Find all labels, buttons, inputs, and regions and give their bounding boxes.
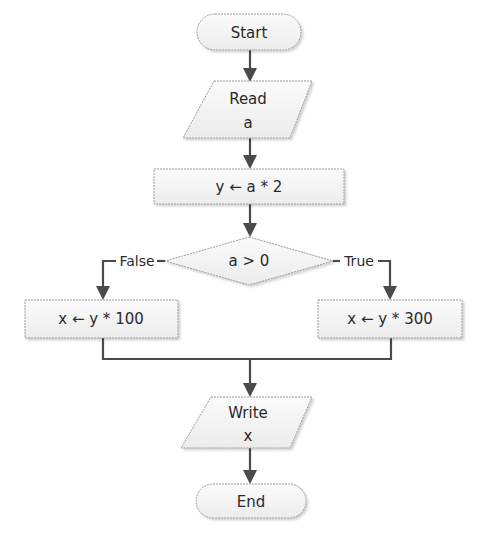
write-output-node[interactable]: Write x bbox=[181, 397, 312, 448]
end-label: End bbox=[237, 493, 266, 511]
read-label: Read bbox=[229, 90, 267, 108]
start-label: Start bbox=[231, 24, 268, 42]
flowchart-canvas: Start Read a y ← a * 2 a > 0 False True … bbox=[0, 0, 485, 534]
false-branch-label: x ← y * 100 bbox=[58, 310, 144, 328]
write-variable: x bbox=[244, 427, 253, 445]
assign-y-label: y ← a * 2 bbox=[216, 178, 283, 196]
connector-read-assign bbox=[243, 138, 257, 169]
false-edge-label: False bbox=[119, 253, 154, 269]
true-branch-label: x ← y * 300 bbox=[347, 310, 433, 328]
connector-merge bbox=[103, 338, 391, 397]
connector-assign-decision bbox=[243, 204, 257, 237]
connector-write-end bbox=[243, 448, 257, 484]
assign-y-process[interactable]: y ← a * 2 bbox=[154, 169, 344, 204]
false-branch-process[interactable]: x ← y * 100 bbox=[25, 300, 178, 338]
end-terminal[interactable]: End bbox=[196, 484, 306, 518]
true-branch-process[interactable]: x ← y * 300 bbox=[318, 300, 462, 338]
read-input-node[interactable]: Read a bbox=[183, 81, 312, 138]
read-variable: a bbox=[243, 114, 252, 132]
decision-node[interactable]: a > 0 bbox=[165, 237, 333, 285]
start-terminal[interactable]: Start bbox=[197, 14, 301, 50]
connector-start-read bbox=[243, 50, 257, 82]
decision-label: a > 0 bbox=[229, 252, 270, 270]
true-edge-label: True bbox=[343, 253, 374, 269]
write-label: Write bbox=[228, 404, 268, 422]
